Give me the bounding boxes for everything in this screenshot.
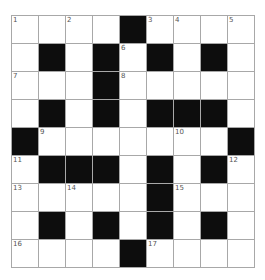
black-cell (93, 100, 120, 128)
grid-cell[interactable] (120, 156, 147, 184)
clue-number: 5 (229, 17, 233, 24)
black-cell (201, 156, 228, 184)
grid-cell[interactable] (228, 212, 255, 240)
grid-cell[interactable] (66, 212, 93, 240)
black-cell (201, 212, 228, 240)
grid-cell[interactable] (147, 128, 174, 156)
grid-cell[interactable] (228, 44, 255, 72)
clue-number: 4 (175, 17, 179, 24)
black-cell (93, 44, 120, 72)
black-cell (228, 128, 255, 156)
grid-cell[interactable] (39, 72, 66, 100)
clue-number: 16 (13, 241, 22, 248)
grid-cell[interactable] (201, 16, 228, 44)
grid-cell[interactable] (39, 240, 66, 268)
black-cell (39, 212, 66, 240)
clue-number: 2 (67, 17, 71, 24)
clue-number: 11 (13, 157, 22, 164)
black-cell (147, 44, 174, 72)
black-cell (39, 156, 66, 184)
grid-cell[interactable] (66, 100, 93, 128)
grid-cell[interactable]: 16 (12, 240, 39, 268)
grid-cell[interactable] (174, 212, 201, 240)
grid-cell[interactable]: 6 (120, 44, 147, 72)
black-cell (39, 44, 66, 72)
clue-number: 8 (121, 73, 125, 80)
clue-number: 1 (13, 17, 17, 24)
grid-cell[interactable] (201, 128, 228, 156)
grid-cell[interactable]: 14 (66, 184, 93, 212)
grid-cell[interactable]: 15 (174, 184, 201, 212)
clue-number: 12 (229, 157, 238, 164)
grid-cell[interactable]: 3 (147, 16, 174, 44)
black-cell (147, 184, 174, 212)
grid-cell[interactable]: 8 (120, 72, 147, 100)
grid-cell[interactable]: 13 (12, 184, 39, 212)
black-cell (201, 44, 228, 72)
black-cell (12, 128, 39, 156)
black-cell (93, 212, 120, 240)
clue-number: 9 (40, 129, 44, 136)
grid-cell[interactable] (93, 240, 120, 268)
grid-cell[interactable]: 7 (12, 72, 39, 100)
grid-cell[interactable]: 5 (228, 16, 255, 44)
grid-cell[interactable] (228, 72, 255, 100)
clue-number: 17 (148, 241, 157, 248)
grid-cell[interactable] (174, 44, 201, 72)
grid-cell[interactable] (93, 128, 120, 156)
clue-number: 3 (148, 17, 152, 24)
grid-cell[interactable] (66, 72, 93, 100)
clue-number: 14 (67, 185, 76, 192)
grid-cell[interactable]: 4 (174, 16, 201, 44)
grid-cell[interactable]: 9 (39, 128, 66, 156)
grid-cell[interactable] (66, 240, 93, 268)
black-cell (147, 156, 174, 184)
grid-cell[interactable]: 11 (12, 156, 39, 184)
grid-cell[interactable] (66, 128, 93, 156)
grid-cell[interactable]: 17 (147, 240, 174, 268)
clue-number: 10 (175, 129, 184, 136)
grid-cell[interactable] (39, 16, 66, 44)
grid-cell[interactable] (93, 184, 120, 212)
grid-cell[interactable] (228, 100, 255, 128)
grid-cell[interactable] (228, 240, 255, 268)
clue-number: 15 (175, 185, 184, 192)
grid-cell[interactable]: 10 (174, 128, 201, 156)
grid-cell[interactable] (201, 72, 228, 100)
grid-cell[interactable] (174, 240, 201, 268)
clue-number: 7 (13, 73, 17, 80)
puzzle-title (0, 0, 265, 8)
black-cell (147, 212, 174, 240)
grid-cell[interactable] (174, 72, 201, 100)
clue-number: 6 (121, 45, 125, 52)
grid-cell[interactable] (147, 72, 174, 100)
black-cell (66, 156, 93, 184)
grid-cell[interactable] (120, 212, 147, 240)
grid-cell[interactable] (228, 184, 255, 212)
grid-cell[interactable] (120, 100, 147, 128)
black-cell (39, 100, 66, 128)
black-cell (147, 100, 174, 128)
grid-cell[interactable] (201, 240, 228, 268)
clue-number: 13 (13, 185, 22, 192)
black-cell (93, 156, 120, 184)
grid-cell[interactable] (93, 16, 120, 44)
grid-cell[interactable] (39, 184, 66, 212)
black-cell (201, 100, 228, 128)
grid-cell[interactable] (201, 184, 228, 212)
black-cell (120, 240, 147, 268)
grid-cell[interactable] (120, 128, 147, 156)
black-cell (174, 100, 201, 128)
grid-cell[interactable]: 12 (228, 156, 255, 184)
crossword-grid: 1234567891011121314151617 (11, 15, 255, 268)
grid-cell[interactable] (12, 44, 39, 72)
grid-cell[interactable] (66, 44, 93, 72)
grid-cell[interactable]: 2 (66, 16, 93, 44)
grid-cell[interactable] (120, 184, 147, 212)
grid-cell[interactable]: 1 (12, 16, 39, 44)
black-cell (120, 16, 147, 44)
grid-cell[interactable] (174, 156, 201, 184)
black-cell (93, 72, 120, 100)
grid-cell[interactable] (12, 212, 39, 240)
grid-cell[interactable] (12, 100, 39, 128)
